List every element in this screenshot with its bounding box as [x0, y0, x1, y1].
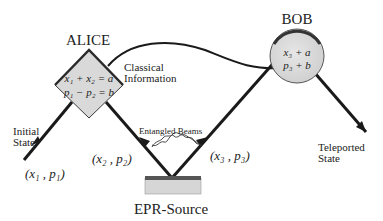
beam-to-alice	[106, 102, 172, 178]
alice-label: ALICE	[66, 32, 110, 48]
classical-label-2: Information	[124, 72, 177, 84]
teleportation-diagram: ALICE x₁ + x₂ = a p₁ − p₂ = b BOB x₃ + a…	[0, 0, 383, 221]
mode-2-label: (x₂ , p₂)	[92, 151, 132, 166]
initial-label-2: State	[13, 136, 35, 148]
bob-label: BOB	[282, 11, 313, 27]
alice-equation-1: x₁ + x₂ = a	[64, 72, 114, 84]
epr-label: EPR-Source	[134, 201, 209, 217]
alice-equation-2: p₁ − p₂ = b	[63, 86, 114, 98]
teleported-beam	[314, 72, 366, 132]
mode-1-label: (x₁ , p₁)	[25, 166, 65, 181]
bob-equation-2: p₃ + b	[282, 59, 311, 71]
bob-equation-1: x₃ + a	[282, 46, 311, 58]
entangled-label: Entangled Beams	[139, 126, 203, 136]
epr-source	[145, 176, 201, 194]
mode-3-label: (x₃ , p₃)	[210, 148, 250, 163]
teleported-label-2: State	[318, 152, 340, 164]
